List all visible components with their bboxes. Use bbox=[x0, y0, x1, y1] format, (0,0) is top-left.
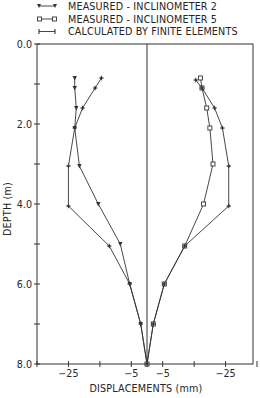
series-layer bbox=[66, 76, 231, 367]
square-marker-icon bbox=[38, 17, 57, 21]
series-line bbox=[147, 78, 213, 364]
triangle-marker-icon bbox=[118, 242, 122, 247]
plus-marker-icon bbox=[99, 76, 103, 80]
series-line bbox=[147, 80, 229, 364]
y-tick-label: 2.0 bbox=[17, 119, 32, 130]
legend-label: MEASURED - INCLINOMETER 5 bbox=[68, 14, 217, 25]
plus-marker-icon bbox=[66, 164, 70, 168]
legend-label: MEASURED - INCLINOMETER 2 bbox=[68, 1, 217, 12]
plus-marker-icon bbox=[227, 164, 231, 168]
x-tick-label: −5 bbox=[156, 368, 170, 379]
y-tick-label: 6.0 bbox=[17, 279, 32, 290]
x-axis-label: DISPLACEMENTS (mm) bbox=[89, 383, 202, 394]
x-tick-label: −25 bbox=[215, 368, 235, 379]
triangle-marker-icon bbox=[96, 202, 100, 207]
plus-marker-icon bbox=[39, 29, 55, 34]
y-axis-label: DEPTH (m) bbox=[2, 182, 13, 236]
plus-marker-icon bbox=[80, 106, 84, 110]
square-marker-icon bbox=[198, 76, 202, 80]
plus-marker-icon bbox=[220, 126, 224, 130]
triangle-marker-icon bbox=[77, 164, 81, 169]
series-right-plus bbox=[145, 78, 231, 366]
x-tick-label: −25 bbox=[58, 368, 78, 379]
square-marker-icon bbox=[211, 162, 215, 166]
y-tick-label: 0.0 bbox=[17, 39, 32, 50]
triangle-marker-icon bbox=[37, 4, 57, 8]
x-tick-label: −5 bbox=[124, 368, 138, 379]
displacement-depth-chart: MEASURED - INCLINOMETER 2 MEASURED - INC… bbox=[0, 0, 260, 398]
y-tick-label: 4.0 bbox=[17, 199, 32, 210]
series-right-square bbox=[145, 76, 215, 366]
y-tick-label: 8.0 bbox=[17, 359, 32, 370]
legend: MEASURED - INCLINOMETER 2 MEASURED - INC… bbox=[37, 1, 238, 37]
square-marker-icon bbox=[202, 202, 206, 206]
triangle-marker-icon bbox=[73, 76, 77, 81]
legend-item-inclinometer-2: MEASURED - INCLINOMETER 2 bbox=[37, 1, 217, 12]
legend-item-inclinometer-5: MEASURED - INCLINOMETER 5 bbox=[38, 14, 218, 25]
square-marker-icon bbox=[205, 106, 209, 110]
square-marker-icon bbox=[208, 126, 212, 130]
chart-canvas: MEASURED - INCLINOMETER 2 MEASURED - INC… bbox=[0, 0, 260, 398]
series-line bbox=[75, 78, 147, 364]
triangle-marker-icon bbox=[73, 86, 77, 91]
triangle-marker-icon bbox=[74, 106, 78, 111]
legend-item-calculated: CALCULATED BY FINITE ELEMENTS bbox=[39, 26, 238, 37]
legend-label: CALCULATED BY FINITE ELEMENTS bbox=[68, 26, 238, 37]
plot-frame bbox=[37, 44, 253, 364]
plus-marker-icon bbox=[212, 106, 216, 110]
plus-marker-icon bbox=[93, 86, 97, 90]
